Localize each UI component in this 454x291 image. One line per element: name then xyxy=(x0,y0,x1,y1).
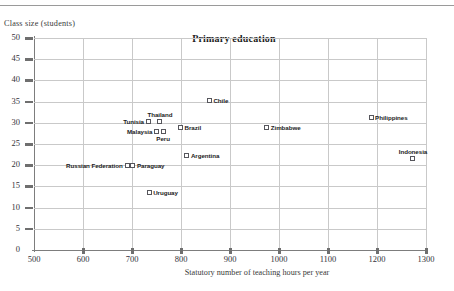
data-point-label: Uruguay xyxy=(153,189,178,196)
y-axis-title: Class size (students) xyxy=(4,19,75,28)
data-point-label: Brazil xyxy=(185,124,202,131)
data-point-marker[interactable] xyxy=(410,156,415,161)
data-point-label: Zimbabwe xyxy=(271,124,301,131)
gridline-vertical xyxy=(377,38,378,250)
y-axis-tick-label: 15 xyxy=(0,180,20,190)
data-point-marker[interactable] xyxy=(147,190,152,195)
x-axis-tick-label: 500 xyxy=(14,254,54,264)
x-axis-tick-label: 1100 xyxy=(308,254,348,264)
data-point-label: Philippines xyxy=(375,114,407,121)
data-point-marker[interactable] xyxy=(157,119,162,124)
data-point-marker[interactable] xyxy=(184,153,189,158)
y-axis-tick xyxy=(25,122,33,125)
y-axis-tick-label: 5 xyxy=(0,223,20,233)
gridline-vertical xyxy=(230,38,231,250)
gridline-vertical xyxy=(181,38,182,250)
y-axis-tick-label: 25 xyxy=(0,138,20,148)
y-axis-tick xyxy=(25,143,33,146)
data-point-label: Peru xyxy=(156,135,170,142)
y-axis-tick-label: 0 xyxy=(0,244,20,254)
y-axis-tick-label: 20 xyxy=(0,159,20,169)
y-axis-tick xyxy=(25,79,33,82)
y-axis-tick-label: 50 xyxy=(0,32,20,42)
y-axis-tick xyxy=(25,58,33,61)
y-axis-tick xyxy=(25,185,33,188)
data-point-marker[interactable] xyxy=(130,163,135,168)
y-axis-tick xyxy=(25,37,33,40)
gridline-vertical xyxy=(279,38,280,250)
data-point-label: Chile xyxy=(213,97,228,104)
gridline-vertical xyxy=(328,38,329,250)
data-point-marker[interactable] xyxy=(264,125,269,130)
x-axis-tick-label: 600 xyxy=(63,254,103,264)
data-point-label: Tunisia xyxy=(123,118,144,125)
gridline-vertical xyxy=(426,38,427,250)
x-axis-title: Statutory number of teaching hours per y… xyxy=(0,268,454,277)
data-point-label: Indonesia xyxy=(399,148,427,155)
gridline-vertical xyxy=(132,38,133,250)
data-point-marker[interactable] xyxy=(207,98,212,103)
y-axis-tick-label: 10 xyxy=(0,202,20,212)
y-axis-tick-label: 45 xyxy=(0,53,20,63)
data-point-label: Argentina xyxy=(191,152,219,159)
gridline-vertical xyxy=(83,38,84,250)
data-point-label: Russian Federation xyxy=(66,162,123,169)
x-axis-tick-label: 1200 xyxy=(357,254,397,264)
plot-area: Russian FederationParaguayUruguayTunisia… xyxy=(34,38,426,250)
data-point-label: Thailand xyxy=(147,111,172,118)
data-point-marker[interactable] xyxy=(369,115,374,120)
data-point-marker[interactable] xyxy=(178,125,183,130)
y-axis-tick-label: 30 xyxy=(0,117,20,127)
y-axis-tick-label: 35 xyxy=(0,96,20,106)
data-point-marker[interactable] xyxy=(125,163,130,168)
data-point-marker[interactable] xyxy=(154,129,159,134)
x-axis-tick-label: 1000 xyxy=(259,254,299,264)
x-axis-tick-label: 900 xyxy=(210,254,250,264)
x-axis-tick-label: 700 xyxy=(112,254,152,264)
data-point-marker[interactable] xyxy=(161,129,166,134)
x-axis-tick-label: 1300 xyxy=(406,254,446,264)
y-axis-tick-label: 40 xyxy=(0,74,20,84)
x-axis-tick-label: 800 xyxy=(161,254,201,264)
y-axis-tick xyxy=(25,164,33,167)
y-axis-tick xyxy=(25,207,33,210)
y-axis-tick xyxy=(25,101,33,104)
header-divider xyxy=(0,5,454,6)
data-point-label: Malaysia xyxy=(127,128,152,135)
y-axis-tick xyxy=(25,228,33,231)
data-point-label: Paraguay xyxy=(137,162,164,169)
chart-page: Class size (students) Primary education … xyxy=(0,0,454,291)
data-point-marker[interactable] xyxy=(146,119,151,124)
